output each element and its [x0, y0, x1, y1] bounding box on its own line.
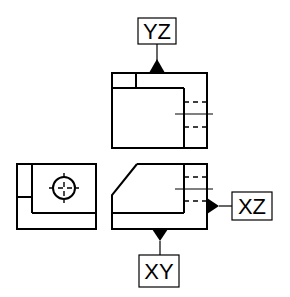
xz-label: XZ [238, 194, 266, 219]
orthographic-drawing: YZ XZ [0, 0, 290, 297]
xz-triangle-icon [207, 198, 219, 214]
top-view-outline [112, 73, 207, 148]
xy-triangle-icon [152, 229, 168, 241]
xy-reference: XY [139, 229, 179, 287]
xz-reference: XZ [207, 192, 272, 220]
top-view [112, 73, 213, 148]
yz-reference: YZ [138, 18, 176, 73]
side-view [17, 164, 96, 229]
front-view [112, 164, 213, 229]
yz-label: YZ [143, 19, 171, 44]
yz-triangle-icon [149, 59, 165, 73]
front-view-outline [112, 164, 207, 229]
xy-label: XY [144, 259, 174, 284]
